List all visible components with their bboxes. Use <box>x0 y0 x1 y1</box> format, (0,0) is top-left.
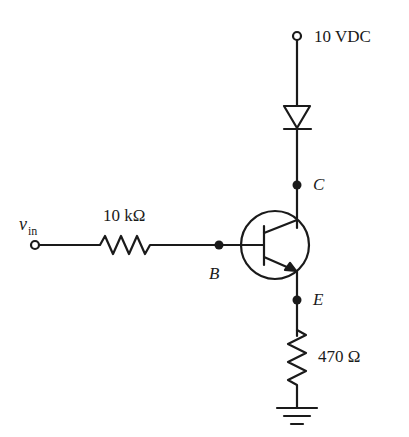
diode-icon <box>284 106 311 129</box>
input-terminal <box>31 241 39 249</box>
emitter-node <box>293 296 302 305</box>
supply-terminal <box>293 32 301 40</box>
input-label-subscript: in <box>28 224 37 238</box>
collector-node <box>293 181 302 190</box>
input-label: v <box>19 214 27 234</box>
emitter-label: E <box>312 290 324 309</box>
base-resistor-label: 10 kΩ <box>103 206 145 225</box>
emitter-resistor-icon <box>288 330 306 408</box>
base-node <box>215 241 224 250</box>
base-label: B <box>209 264 220 283</box>
supply-label: 10 VDC <box>314 27 371 46</box>
emitter-resistor-label: 470 Ω <box>318 347 360 366</box>
collector-label: C <box>313 175 325 194</box>
base-resistor-icon <box>39 236 219 254</box>
ground-icon <box>277 408 317 424</box>
circuit-diagram: 10 VDC C B E 10 kΩ 470 Ω v in <box>0 0 409 437</box>
